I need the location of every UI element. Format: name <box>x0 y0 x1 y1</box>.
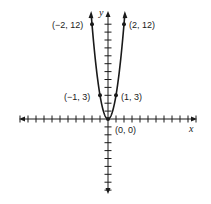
data-point <box>122 22 126 26</box>
y-axis-top-arrow-icon <box>106 11 111 17</box>
point-label-neg2-12: (−2, 12) <box>52 20 83 30</box>
y-axis-label: y <box>98 7 104 18</box>
parabola-chart: y x (−2, 12) (2, 12) (−1, 3) (1, 3) (0, … <box>0 0 211 204</box>
point-label-2-12: (2, 12) <box>129 20 155 30</box>
y-axis <box>105 11 112 194</box>
data-point <box>106 117 110 121</box>
point-label-neg1-3: (−1, 3) <box>64 92 90 102</box>
data-point <box>90 22 94 26</box>
data-point <box>98 93 102 97</box>
x-axis-label: x <box>188 123 194 134</box>
y-axis-bottom-arrow-icon <box>106 188 111 194</box>
curve-right-arrow-icon <box>123 11 128 18</box>
data-point <box>114 93 118 97</box>
point-label-1-3: (1, 3) <box>121 92 142 102</box>
point-label-origin: (0, 0) <box>115 125 136 135</box>
curve-left-arrow-icon <box>89 11 94 18</box>
